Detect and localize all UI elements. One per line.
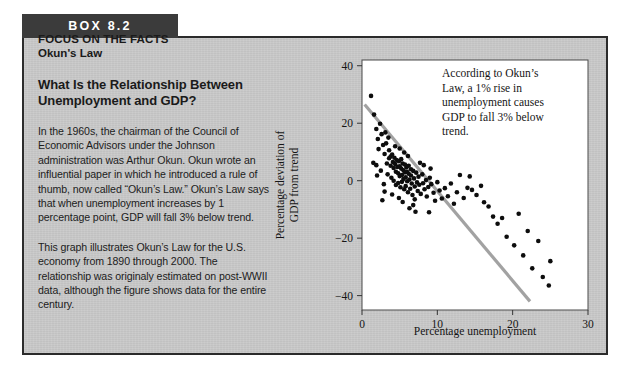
data-point [491, 214, 496, 219]
data-point [530, 266, 535, 271]
data-point [385, 172, 390, 177]
data-point [378, 121, 383, 126]
data-point [428, 166, 433, 171]
section-heading-line-1: What Is the Relationship Between [38, 77, 270, 93]
data-point [455, 190, 460, 195]
data-point [467, 174, 472, 179]
data-point [391, 178, 396, 183]
y-tick-label: 40 [342, 60, 354, 72]
data-point [446, 194, 451, 199]
section-heading-line-2: Unemployment and GDP? [38, 93, 270, 109]
data-point [412, 184, 417, 189]
data-point [400, 200, 405, 205]
data-point [411, 203, 416, 208]
okun-law-scatter-chart: 40200−20−40 0102030 According to Okun’sL… [256, 22, 608, 342]
y-tick-label: −40 [335, 290, 353, 302]
y-tick-label: 20 [342, 117, 354, 129]
chart-svg-canvas: 40200−20−40 0102030 According to Okun’sL… [256, 22, 608, 342]
data-point [440, 196, 445, 201]
data-point [382, 182, 387, 187]
data-point [412, 176, 417, 181]
data-point [403, 184, 408, 189]
data-point [482, 200, 487, 205]
data-point [516, 211, 521, 216]
data-point [431, 190, 436, 195]
data-point [382, 152, 387, 157]
data-point [470, 188, 475, 193]
annotation-line: unemployment causes [442, 96, 544, 109]
annotation-line: Law, a 1% rise in [442, 82, 522, 95]
data-point [397, 196, 402, 201]
data-point [414, 170, 419, 175]
data-point [429, 182, 434, 187]
data-point [418, 192, 423, 197]
data-point [433, 199, 438, 204]
data-point [541, 275, 546, 280]
data-point [412, 197, 417, 202]
data-point [383, 130, 388, 135]
data-point [521, 253, 526, 258]
data-point [408, 186, 413, 191]
data-point [407, 206, 412, 211]
data-point [435, 180, 440, 185]
y-axis-ticks: 40200−20−40 [335, 60, 362, 302]
data-point [548, 259, 553, 264]
data-point [479, 184, 484, 189]
data-point [486, 204, 491, 209]
data-point [504, 234, 509, 239]
x-tick-label: 0 [359, 318, 365, 330]
data-point [410, 193, 415, 198]
section-heading: What Is the Relationship Between Unemplo… [38, 77, 270, 109]
data-point [420, 172, 425, 177]
y-tick-label: −20 [335, 232, 353, 244]
data-point [452, 201, 457, 206]
article-text-column: FOCUS ON THE FACTS Okun's Law What Is th… [38, 32, 270, 322]
data-point [428, 176, 433, 181]
data-point [372, 112, 377, 117]
eyebrow-heading: FOCUS ON THE FACTS [38, 32, 270, 46]
data-point [413, 209, 418, 214]
data-point [374, 127, 379, 132]
data-point [449, 181, 454, 186]
data-point [402, 150, 407, 155]
eyebrow-subheading: Okun's Law [38, 46, 270, 60]
y-axis-title-line-2: GDP from trend [288, 148, 300, 223]
data-point [421, 163, 426, 168]
data-point [495, 221, 500, 226]
data-point [427, 210, 432, 215]
y-axis-title-group: Percentage deviation of GDP from trend [274, 131, 300, 240]
data-point [382, 189, 387, 194]
body-paragraph-2: This graph illustrates Okun’s Law for th… [38, 240, 270, 312]
data-point [424, 194, 429, 199]
data-point [458, 173, 463, 178]
data-point [465, 186, 470, 191]
data-point [376, 137, 381, 142]
data-point [384, 141, 389, 146]
data-point [474, 193, 479, 198]
data-point [397, 146, 402, 151]
data-point [380, 198, 385, 203]
data-point [512, 243, 517, 248]
data-point [386, 135, 391, 140]
body-paragraph-1: In the 1960s, the chairman of the Counci… [38, 124, 270, 225]
data-point [547, 283, 552, 288]
data-point [461, 196, 466, 201]
data-point [437, 188, 442, 193]
data-point [407, 177, 412, 182]
data-point [375, 173, 380, 178]
data-point [369, 94, 374, 99]
data-point [525, 229, 530, 234]
x-axis-title: Percentage unemployment [414, 325, 537, 338]
data-point [379, 168, 384, 173]
annotation-line: trend. [442, 125, 469, 137]
data-point [390, 192, 395, 197]
data-point [500, 216, 505, 221]
annotation-line: According to Okun’s [442, 67, 539, 80]
x-tick-label: 30 [582, 318, 594, 330]
data-point [443, 186, 448, 191]
y-tick-label: 0 [347, 175, 353, 187]
data-point [536, 239, 541, 244]
data-point [399, 157, 404, 162]
data-point [387, 148, 392, 153]
box-container: BOX 8.2 FOCUS ON THE FACTS Okun's Law Wh… [22, 14, 612, 357]
